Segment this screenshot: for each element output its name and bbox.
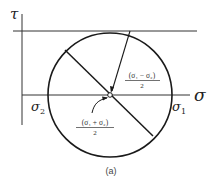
sigma1-label: σ1 [172, 99, 186, 116]
center-point [108, 93, 113, 98]
center-pointer-arrow [92, 98, 107, 113]
radius-formula-numerator: (σ₁ − σ₂) [129, 71, 156, 80]
tau-label: τ [10, 5, 19, 23]
radius-formula-denominator: 2 [140, 82, 144, 90]
center-arrowhead-icon [102, 97, 108, 101]
sigma-label: σ [194, 85, 206, 105]
center-formula-denominator: 2 [93, 129, 97, 137]
radius-arrowhead-icon [110, 86, 114, 93]
diagram-svg: τ σ σ2 σ1 (σ₁ − σ₂) 2 (σ₁ + σ₂) 2 (a) [0, 0, 221, 184]
mohr-circle-diagram: τ σ σ2 σ1 (σ₁ − σ₂) 2 (σ₁ + σ₂) 2 (a) [0, 0, 221, 184]
center-formula-numerator: (σ₁ + σ₂) [82, 118, 109, 127]
sigma2-label: σ2 [31, 99, 45, 116]
figure-caption: (a) [106, 166, 117, 176]
radius-line [112, 31, 130, 91]
